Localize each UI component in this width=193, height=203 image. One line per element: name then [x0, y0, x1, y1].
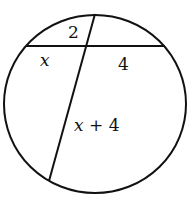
- label-bottom-segment: x + 4: [74, 115, 119, 135]
- label-left-segment: x: [40, 50, 50, 70]
- label-right-segment: 4: [118, 54, 129, 74]
- label-bottom-var: x: [74, 115, 84, 135]
- label-top-segment: 2: [68, 22, 79, 42]
- circle: [4, 15, 186, 193]
- label-bottom-rest: + 4: [84, 115, 120, 135]
- circle-chords-diagram: 2 x 4 x + 4: [0, 0, 193, 203]
